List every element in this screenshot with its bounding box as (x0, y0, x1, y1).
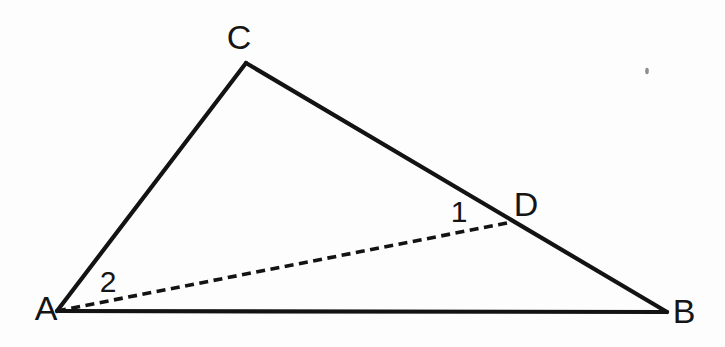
segment-cb (246, 63, 667, 312)
angle-label-1: 1 (451, 195, 468, 228)
angle-label-2: 2 (100, 265, 117, 298)
vertex-label-d: D (514, 185, 539, 223)
vertex-label-c: C (227, 18, 252, 56)
segment-ab (57, 311, 667, 312)
geometry-diagram: A B C D 1 2 (0, 0, 725, 347)
segment-ad-dashed (57, 223, 507, 311)
scan-speck (645, 68, 649, 74)
vertex-label-b: B (673, 292, 696, 330)
diagram-canvas: A B C D 1 2 (0, 0, 725, 347)
segment-ac (57, 63, 246, 311)
vertex-label-a: A (35, 289, 58, 327)
